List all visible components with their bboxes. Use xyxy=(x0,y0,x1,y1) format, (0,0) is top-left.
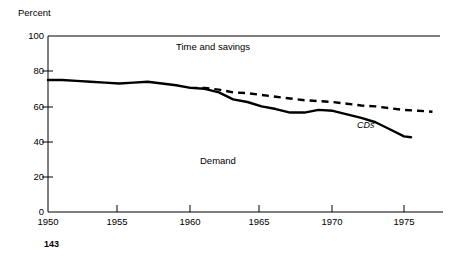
y-tick-label-20: 20 xyxy=(14,172,44,182)
y-tick-label-100: 100 xyxy=(14,31,44,41)
x-tick-label-1965: 1965 xyxy=(239,217,279,227)
x-tick-label-1955: 1955 xyxy=(97,217,137,227)
x-tick-label-1950: 1950 xyxy=(28,217,68,227)
x-tick-label-1970: 1970 xyxy=(312,217,352,227)
series-label-demand: Demand xyxy=(200,156,236,166)
y-tick-label-40: 40 xyxy=(14,137,44,147)
series-time-and-savings-line xyxy=(190,88,432,112)
y-tick-label-60: 60 xyxy=(14,102,44,112)
y-tick-label-80: 80 xyxy=(14,66,44,76)
x-tick-marks xyxy=(117,205,404,212)
series-label-cds: CDs xyxy=(357,121,375,130)
chart-figure: Percent 100 80 60 40 20 0 xyxy=(0,0,466,263)
page-number: 143 xyxy=(44,240,59,249)
series-label-time-and-savings: Time and savings xyxy=(176,42,250,52)
x-tick-label-1960: 1960 xyxy=(170,217,210,227)
x-tick-label-1975: 1975 xyxy=(384,217,424,227)
